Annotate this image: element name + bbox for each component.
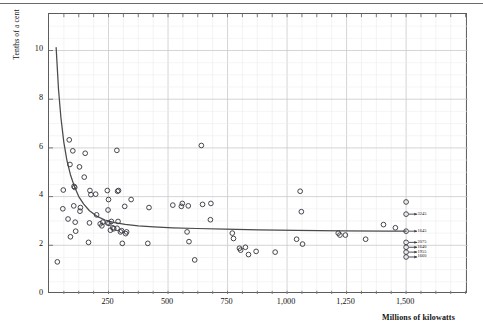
scatter-point	[300, 242, 305, 247]
y-tick-label: 4	[23, 190, 43, 199]
data-layer	[49, 14, 468, 294]
scatter-point	[273, 250, 278, 255]
page-top-rule	[0, 3, 483, 4]
scatter-point	[55, 260, 60, 265]
scatter-point	[299, 209, 304, 214]
y-axis-title: Tenths of a cent	[12, 0, 21, 70]
scatter-point	[66, 217, 71, 222]
scatter-point	[243, 245, 248, 250]
x-tick-label: 1,500	[385, 297, 425, 306]
scatter-point	[147, 205, 152, 210]
scatter-point	[298, 189, 303, 194]
scatter-point	[231, 236, 236, 241]
scatter-point	[77, 165, 82, 170]
scatter-point	[246, 252, 251, 257]
scatter-point	[60, 206, 65, 211]
scatter-point	[294, 237, 299, 242]
plot-area	[48, 13, 467, 293]
scatter-point	[254, 249, 259, 254]
scatter-point	[208, 217, 213, 222]
scatter-point	[82, 175, 87, 180]
scatter-point	[343, 233, 348, 238]
annotation-label: 3245	[418, 211, 427, 216]
scatter-point	[404, 200, 409, 205]
scatter-point	[200, 202, 205, 207]
annotation-label: 1645	[418, 228, 427, 233]
y-tick-label: 8	[23, 93, 43, 102]
scatter-point	[122, 204, 127, 209]
scatter-point	[170, 203, 175, 208]
scatter-point	[187, 239, 192, 244]
scatter-point	[381, 222, 386, 227]
scatter-point	[83, 151, 88, 156]
scatter-point	[73, 229, 78, 234]
scatter-point	[106, 197, 111, 202]
chart-page: Tenths of a cent 0246810 2505007501,0001…	[0, 0, 483, 331]
x-tick-label: 750	[207, 297, 247, 306]
scatter-point	[199, 143, 204, 148]
scatter-point	[186, 204, 191, 209]
scatter-point	[179, 204, 184, 209]
scatter-point	[120, 241, 125, 246]
scatter-point	[73, 220, 78, 225]
y-tick-label: 0	[23, 288, 43, 297]
x-tick-label: 500	[147, 297, 187, 306]
scatter-point	[115, 148, 120, 153]
scatter-point	[363, 237, 368, 242]
scatter-point	[404, 255, 409, 260]
scatter-point	[209, 201, 214, 206]
x-tick-label: 1,250	[326, 297, 366, 306]
scatter-point	[71, 204, 76, 209]
y-tick-label: 10	[23, 44, 43, 53]
scatter-point	[61, 188, 66, 193]
scatter-point	[67, 138, 72, 143]
scatter-point	[404, 250, 409, 255]
scatter-point	[86, 240, 91, 245]
scatter-point	[68, 234, 73, 239]
annotation-label: 1660	[418, 253, 427, 258]
x-tick-label: 1,000	[266, 297, 306, 306]
scatter-point	[230, 231, 235, 236]
scatter-point	[145, 241, 150, 246]
scatter-point	[192, 258, 197, 263]
scatter-point	[185, 230, 190, 235]
scatter-point	[180, 201, 185, 206]
x-axis-title: Millions of kilowatts	[382, 313, 455, 322]
scatter-point	[129, 197, 134, 202]
scatter-point	[404, 240, 409, 245]
scatter-point	[393, 225, 398, 230]
scatter-point	[70, 148, 75, 153]
x-tick-label: 250	[88, 297, 128, 306]
scatter-point	[87, 221, 92, 226]
scatter-point	[404, 245, 409, 250]
y-tick-label: 6	[23, 142, 43, 151]
scatter-point	[93, 192, 98, 197]
scatter-point	[118, 230, 123, 235]
scatter-point	[105, 188, 110, 193]
y-tick-label: 2	[23, 239, 43, 248]
scatter-point	[106, 208, 111, 213]
scatter-point	[404, 212, 409, 217]
